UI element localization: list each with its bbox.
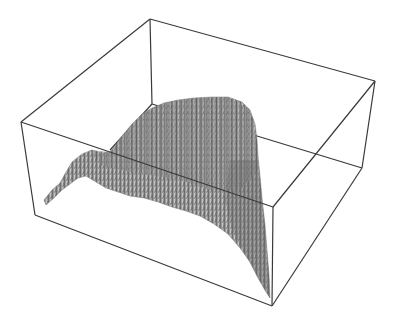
surface-mesh [44,97,270,298]
surface-plot-svg [0,0,393,325]
surface-plot-figure [0,0,393,325]
